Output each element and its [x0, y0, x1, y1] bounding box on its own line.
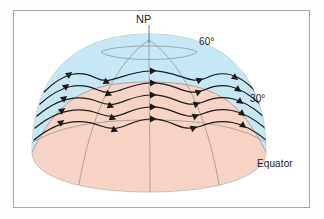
label-equator: Equator: [257, 158, 293, 169]
label-north-pole: NP: [136, 13, 151, 25]
figure-root: NP 60° 30° Equator: [0, 0, 324, 219]
label-latitude-30: 30°: [250, 93, 265, 104]
label-latitude-60: 60°: [199, 36, 214, 47]
hemisphere-diagram: [0, 0, 324, 219]
